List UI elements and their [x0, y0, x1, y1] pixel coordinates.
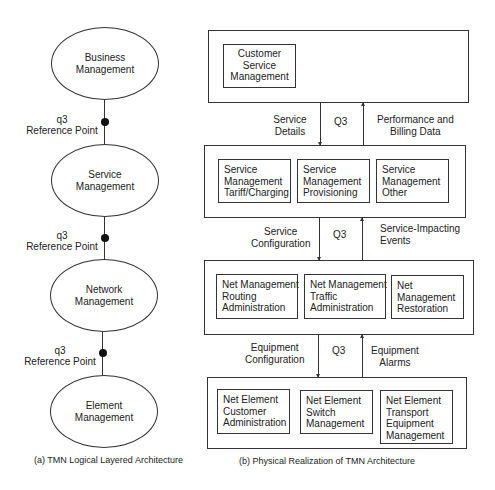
- interface-label: Q3: [334, 116, 347, 128]
- flow-text: Configuration: [251, 238, 310, 249]
- caption-a: (a) TMN Logical Layered Architecture: [34, 455, 183, 465]
- box-text: Net Element: [386, 395, 447, 407]
- box-service-mgmt-other: Service Management Other: [376, 159, 449, 203]
- box-text: Provisioning: [303, 187, 364, 199]
- box-text: Traffic: [310, 291, 380, 303]
- layer-label: Management: [75, 412, 133, 423]
- box-text: Net Management: [310, 279, 380, 291]
- box-text: Management: [306, 418, 367, 430]
- flow-text: Configuration: [245, 354, 304, 365]
- box-text: Transport: [386, 407, 447, 419]
- flow-text: Equipment: [371, 345, 419, 356]
- flow-label-down: ServiceConfiguration: [251, 226, 310, 250]
- ref-label-line: q3: [56, 114, 67, 125]
- layer-label: Management: [75, 296, 133, 307]
- layer-business-management: BusinessManagement: [51, 27, 159, 100]
- box-text: Management: [224, 176, 285, 188]
- layer-service-management: ServiceManagement: [51, 144, 159, 217]
- ref-label-line: Reference Point: [26, 241, 98, 252]
- downward-arrow: [319, 218, 320, 260]
- box-text: Equipment: [386, 418, 447, 430]
- flow-text: Billing Data: [390, 126, 441, 137]
- box-text: Net: [397, 280, 458, 292]
- interface-label: Q3: [333, 229, 346, 241]
- box-text: Service: [224, 164, 285, 176]
- upward-arrow: [363, 103, 364, 145]
- layer-label: Service: [88, 169, 121, 180]
- box-text: Net Element: [306, 395, 367, 407]
- box-net-element-customer-admin: Net Element Customer Administration: [217, 389, 290, 434]
- flow-text: Performance and: [377, 114, 454, 125]
- flow-label-up: Performance andBilling Data: [377, 114, 454, 138]
- box-net-mgmt-routing-admin: Net Management Routing Administration: [216, 274, 298, 319]
- layer-label: Business: [85, 52, 126, 63]
- flow-text: Details: [275, 126, 306, 137]
- reference-point-label: q3Reference Point: [20, 345, 100, 367]
- flow-text: Equipment: [251, 342, 299, 353]
- box-text: Net Element: [223, 394, 284, 406]
- flow-label-down: ServiceDetails: [270, 114, 310, 138]
- box-text: Tariff/Charging: [224, 187, 285, 199]
- box-text: Administration: [223, 417, 284, 429]
- ref-label-line: Reference Point: [26, 125, 98, 136]
- box-service-mgmt-provisioning: Service Management Provisioning: [297, 159, 370, 203]
- box-text: Service: [382, 164, 443, 176]
- layer-label: Management: [76, 64, 134, 75]
- downward-arrow: [320, 103, 321, 145]
- box-text: Restoration: [397, 303, 458, 315]
- box-text: Administration: [310, 302, 380, 314]
- upward-arrow: [362, 218, 363, 260]
- layer-label: Management: [76, 181, 134, 192]
- flow-label-up: Service-ImpactingEvents: [380, 223, 460, 247]
- flow-text: Service-Impacting: [380, 223, 460, 234]
- box-net-element-switch-mgmt: Net Element Switch Management: [300, 390, 373, 434]
- box-text: Service: [303, 164, 364, 176]
- box-service-mgmt-tariff-charging: Service Management Tariff/Charging: [218, 159, 291, 203]
- box-text: Switch: [306, 407, 367, 419]
- box-text: Other: [382, 187, 443, 199]
- box-text: Administration: [222, 302, 292, 314]
- downward-arrow: [318, 335, 319, 377]
- upward-arrow: [362, 335, 363, 377]
- layer-label: Element: [86, 400, 123, 411]
- flow-label-down: EquipmentConfiguration: [245, 342, 304, 366]
- box-text: Management: [226, 71, 293, 83]
- reference-point-label: q3Reference Point: [22, 114, 102, 136]
- caption-b: (b) Physical Realization of TMN Architec…: [239, 456, 415, 466]
- ref-label-line: Reference Point: [24, 356, 96, 367]
- box-text: Management: [382, 176, 443, 188]
- flow-text: Alarms: [379, 357, 410, 368]
- box-text: Routing: [222, 291, 292, 303]
- box-net-mgmt-traffic-admin: Net Management Traffic Administration: [304, 274, 386, 319]
- reference-point-icon: [99, 349, 107, 357]
- reference-point-icon: [101, 118, 109, 126]
- box-text: Management: [386, 430, 447, 442]
- ref-label-line: q3: [54, 345, 65, 356]
- layer-element-management: ElementManagement: [50, 375, 158, 448]
- box-text: Management: [397, 292, 458, 304]
- box-text: Management: [303, 176, 364, 188]
- flow-text: Events: [380, 235, 411, 246]
- reference-point-label: q3Reference Point: [22, 230, 102, 252]
- box-net-mgmt-restoration: Net Management Restoration: [391, 275, 464, 319]
- flow-text: Service: [264, 226, 297, 237]
- interface-label: Q3: [332, 345, 345, 357]
- layer-network-management: NetworkManagement: [50, 259, 158, 332]
- box-net-element-transport-equipment-mgmt: Net Element Transport Equipment Manageme…: [380, 390, 453, 444]
- reference-point-icon: [101, 234, 109, 242]
- ref-label-line: q3: [56, 230, 67, 241]
- box-text: Customer: [226, 48, 293, 60]
- box-customer-service-management: Customer Service Management: [223, 44, 296, 88]
- box-text: Service: [226, 60, 293, 72]
- flow-text: Service: [273, 114, 306, 125]
- box-text: Customer: [223, 406, 284, 418]
- layer-label: Network: [86, 284, 123, 295]
- box-text: Net Management: [222, 279, 292, 291]
- flow-label-up: EquipmentAlarms: [371, 345, 419, 369]
